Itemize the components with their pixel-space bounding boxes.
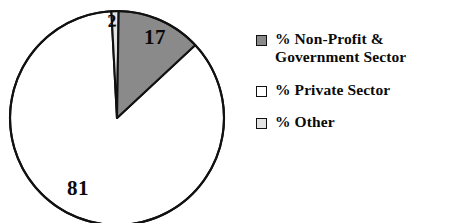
legend-item-nonprofit-government[interactable]: % Non-Profit &Government Sector (256, 30, 452, 67)
pie-chart-svg (0, 0, 240, 223)
legend-label-other: % Other (275, 113, 335, 131)
legend-label-nonprofit-line2: Government Sector (275, 48, 406, 65)
legend-label-nonprofit-government: % Non-Profit &Government Sector (275, 30, 406, 67)
legend-swatch-light-gray-icon (256, 118, 267, 129)
legend-item-private-sector[interactable]: % Private Sector (256, 81, 452, 99)
legend-swatch-dark-gray-icon (256, 35, 267, 46)
legend-label-private-sector: % Private Sector (275, 81, 390, 99)
legend-label-nonprofit-line1: % Non-Profit & (275, 30, 384, 47)
pie-value-label-nonprofit: 17 (144, 27, 166, 48)
pie-value-label-private: 81 (67, 178, 89, 199)
chart-legend: % Non-Profit &Government Sector % Privat… (256, 30, 452, 145)
legend-item-other[interactable]: % Other (256, 113, 452, 131)
legend-swatch-white-icon (256, 86, 267, 97)
pie-value-label-other: 2 (107, 12, 117, 30)
pie-chart-area: 17 81 2 (0, 0, 240, 223)
pie-chart-figure: 17 81 2 % Non-Profit &Government Sector … (0, 0, 453, 223)
